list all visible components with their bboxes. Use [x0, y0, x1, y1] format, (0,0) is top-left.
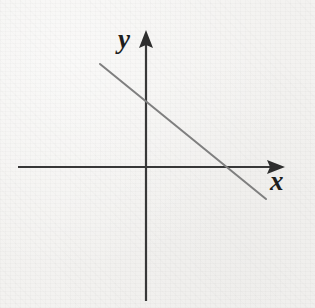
- graph-figure: y x: [0, 0, 315, 308]
- x-axis-label: x: [270, 168, 284, 195]
- y-axis-label: y: [118, 26, 130, 53]
- plotted-line: [100, 64, 266, 199]
- coordinate-plane-svg: [0, 0, 315, 308]
